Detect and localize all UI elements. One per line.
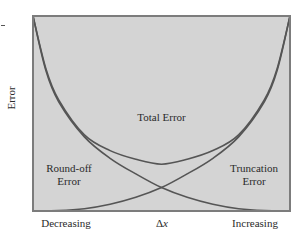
- x-axis-label-x: x: [162, 217, 168, 229]
- series-label-total-error: Total Error: [137, 111, 186, 123]
- x-axis-label: Δx: [156, 217, 168, 229]
- series-label-line: Error: [242, 175, 266, 187]
- x-tick-label-decreasing: Decreasing: [41, 217, 91, 229]
- x-axis-label-delta: Δ: [156, 217, 163, 229]
- series-label-line: Truncation: [230, 162, 278, 174]
- series-label-line: Error: [57, 175, 81, 187]
- y-axis-label: Error: [5, 86, 17, 110]
- error-tradeoff-chart: Error Decreasing Δx Increasing Round-off…: [0, 0, 305, 238]
- x-tick-label-increasing: Increasing: [232, 217, 278, 229]
- series-label-line: Round-off: [46, 162, 92, 174]
- series-label-line: Total Error: [137, 111, 186, 123]
